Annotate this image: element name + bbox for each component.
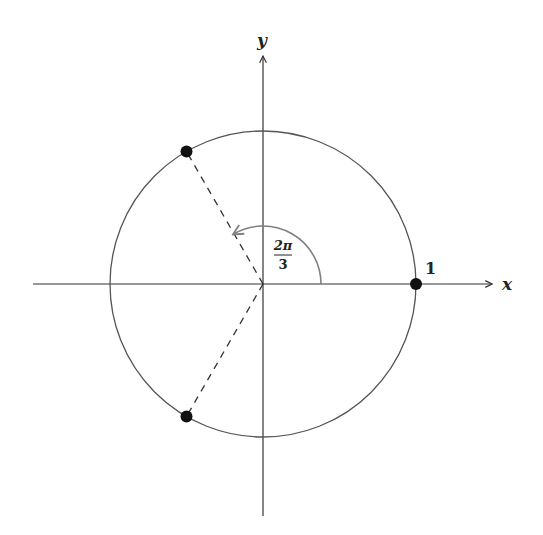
point-one bbox=[410, 278, 422, 290]
angle-label-denominator: 3 bbox=[278, 257, 287, 272]
angle-label-numerator: 2π bbox=[273, 238, 293, 253]
unit-circle-diagram: y x 1 2π 3 bbox=[0, 0, 543, 535]
dashed-radius-omega-squared bbox=[187, 284, 264, 417]
dashed-radius-omega bbox=[187, 152, 264, 285]
point-omega bbox=[181, 146, 193, 158]
x-axis-label: x bbox=[501, 274, 513, 294]
y-axis-label: y bbox=[256, 30, 268, 50]
point-omega-squared bbox=[181, 411, 193, 423]
point-one-label: 1 bbox=[425, 259, 436, 278]
